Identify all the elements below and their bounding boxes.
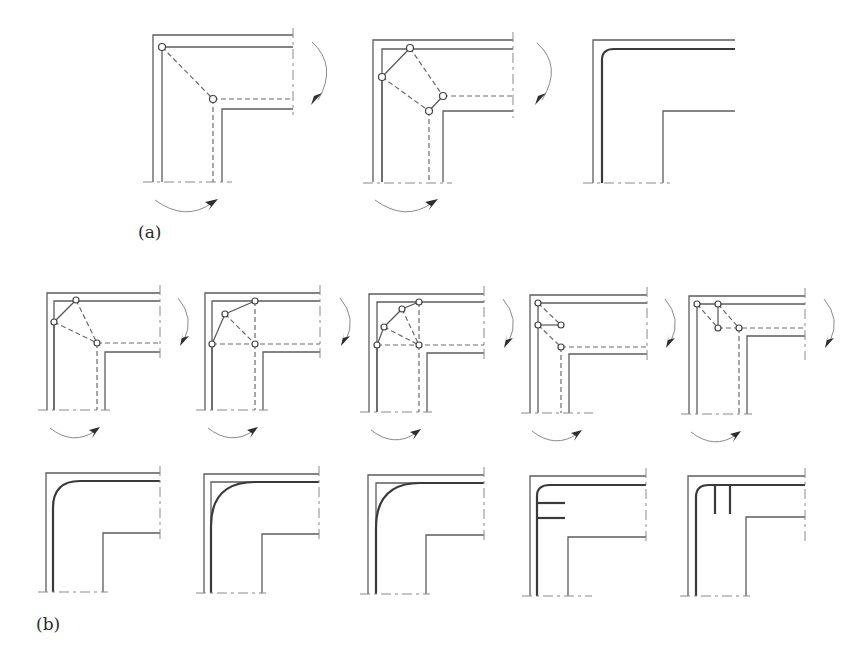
panel-b4-result (522, 468, 646, 596)
panel-b1-mechanism (38, 285, 189, 438)
panel-a1-mechanism (143, 28, 327, 212)
panel-b4-mechanism (521, 287, 675, 441)
rotation-arrow-bottom (50, 428, 95, 438)
rotation-arrow-right (503, 299, 513, 341)
panel-b2-mechanism (196, 285, 350, 438)
pivot-node (51, 319, 57, 325)
label-a: (a) (138, 222, 161, 242)
pivot-node (381, 324, 387, 330)
pivot-node (252, 341, 258, 347)
pivot-node (426, 108, 433, 115)
rotation-arrow-right (312, 42, 327, 100)
pivot-node (374, 342, 380, 348)
rotation-arrow-right (178, 298, 188, 340)
pivot-node (94, 340, 100, 346)
pivot-node (694, 301, 700, 307)
rotation-arrow-right (824, 299, 834, 341)
rotation-arrow-bottom (371, 430, 416, 440)
rotation-arrow-bottom (532, 431, 577, 441)
rotation-arrow-bottom (691, 432, 736, 442)
diagram-canvas (0, 0, 867, 660)
pivot-node (209, 341, 215, 347)
panel-b3-mechanism (360, 286, 513, 440)
pivot-node (558, 322, 564, 328)
rotation-arrow-right (665, 299, 675, 341)
pivot-node (399, 306, 405, 312)
rotation-arrow-right (340, 298, 350, 340)
pivot-node (440, 93, 447, 100)
pivot-node (535, 322, 541, 328)
pivot-node (715, 325, 721, 331)
rotation-arrow-bottom (155, 200, 212, 212)
pivot-node (210, 96, 217, 103)
label-b: (b) (36, 614, 60, 634)
panel-b3-result (360, 467, 484, 594)
rotation-arrow-bottom (208, 428, 253, 438)
pivot-node (558, 344, 564, 350)
pivot-node (736, 325, 742, 331)
panel-b2-result (196, 466, 319, 593)
panel-b5-mechanism (681, 288, 834, 442)
rotation-arrow-right (537, 43, 551, 100)
panel-a2-mechanism (363, 32, 551, 212)
pivot-node (252, 298, 258, 304)
pivot-node (416, 299, 422, 305)
panel-a3-result (583, 40, 735, 183)
pivot-node (715, 301, 721, 307)
pivot-node (222, 311, 228, 317)
panel-b1-result (38, 466, 160, 592)
pivot-node (416, 342, 422, 348)
pivot-node (379, 74, 386, 81)
panel-b5-result (680, 468, 805, 596)
pivot-node (535, 300, 541, 306)
pivot-node (159, 44, 166, 51)
rotation-arrow-bottom (375, 200, 432, 212)
pivot-node (73, 297, 79, 303)
pivot-node (407, 45, 414, 52)
